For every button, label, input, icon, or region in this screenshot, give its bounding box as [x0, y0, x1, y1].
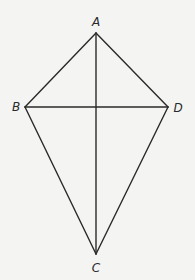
vertex-label-c: C [92, 261, 101, 275]
side-ad [96, 33, 168, 107]
vertex-label-d: D [173, 101, 182, 115]
kite-diagram: A B D C [0, 0, 195, 280]
vertex-label-a: A [91, 15, 100, 29]
side-dc [96, 107, 168, 254]
vertex-label-b: B [12, 100, 20, 114]
side-bc [25, 107, 96, 254]
kite-figure: A B D C [0, 0, 195, 280]
side-ab [25, 33, 96, 107]
